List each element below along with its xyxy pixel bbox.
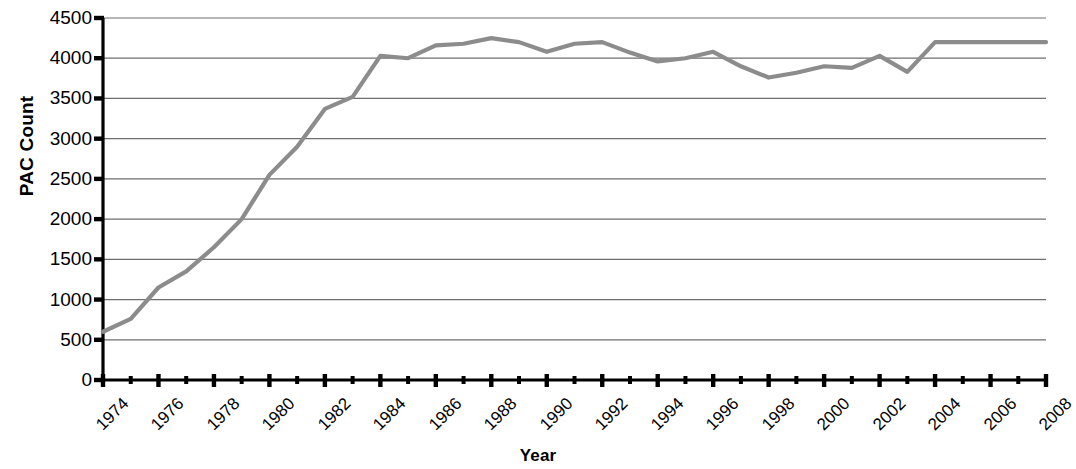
x-axis-tick-labels: 1974197619781980198219841986198819901992… (0, 0, 1076, 469)
pac-count-line-chart: PAC Count 050010001500200025003000350040… (0, 0, 1076, 469)
x-axis-title: Year (0, 446, 1076, 466)
